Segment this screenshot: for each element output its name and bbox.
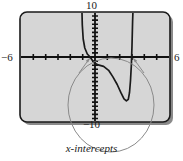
calculator-screen-figure [0,0,183,161]
x-min-label: −6 [1,52,13,63]
y-min-label: −10 [0,119,183,130]
x-intercepts-caption: x-intercepts [0,143,183,154]
figure-container: 10 −10 −6 6 x-intercepts [0,0,183,161]
x-max-label: 6 [174,52,180,63]
y-max-label: 10 [0,0,183,11]
